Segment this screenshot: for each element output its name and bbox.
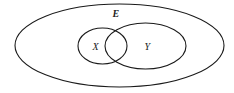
universal-set-ellipse [15,4,224,87]
set-x-circle [78,28,127,64]
set-y-label: Y [145,41,152,52]
venn-diagram: E X Y [0,0,234,93]
set-x-label: X [92,41,100,52]
universal-set-label: E [112,8,120,19]
